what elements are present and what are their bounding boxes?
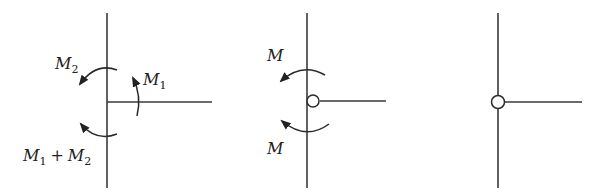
diagram-canvas: M2 M1 M1+M2 M M: [0, 0, 608, 196]
moment-arrow-bottom: [282, 121, 329, 132]
hinge-icon: [492, 96, 505, 109]
moment-arrow-m2: [80, 68, 117, 84]
figure-hinged-joint-with-moments: M M: [266, 13, 386, 188]
label-m-top: M: [266, 46, 284, 65]
label-m2: M2: [54, 54, 78, 76]
moment-arrow-top: [281, 70, 325, 81]
figure-rigid-joint: M2 M1 M1+M2: [22, 13, 212, 188]
label-m1: M1: [142, 70, 166, 92]
hinge-icon: [307, 95, 319, 107]
moment-arrow-sum: [81, 124, 117, 136]
figure-hinged-joint: [492, 13, 583, 188]
label-m-bottom: M: [266, 139, 284, 158]
label-m1-plus-m2: M1+M2: [22, 146, 91, 168]
moment-arrow-m1: [133, 78, 139, 116]
